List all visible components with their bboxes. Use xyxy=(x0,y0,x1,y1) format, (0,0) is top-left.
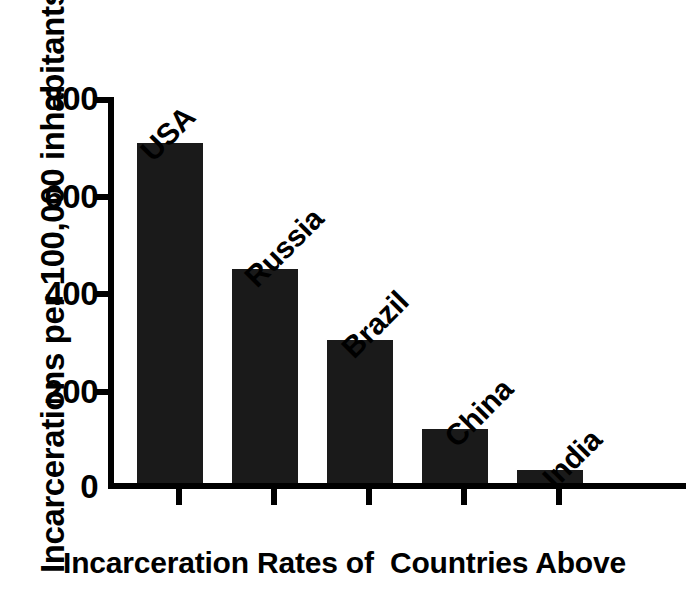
x-axis-tick-brazil xyxy=(366,489,372,505)
x-axis-tick-usa xyxy=(176,489,182,505)
bar-russia xyxy=(232,269,298,483)
plot-area: USA Russia Brazil China India xyxy=(0,0,689,594)
x-axis-title: Incarceration Rates of Countries Above xyxy=(0,546,689,580)
x-axis-line xyxy=(108,483,686,489)
x-axis-tick-russia xyxy=(271,489,277,505)
y-axis-tick-800 xyxy=(93,97,110,103)
y-axis-tick-200 xyxy=(93,389,110,395)
bar-chart: Incarcerations per 100,000 inhabitants 8… xyxy=(0,0,689,594)
y-axis-tick-400 xyxy=(93,291,110,297)
y-axis-tick-600 xyxy=(93,194,110,200)
bar-usa xyxy=(137,143,203,483)
x-axis-tick-china xyxy=(461,489,467,505)
